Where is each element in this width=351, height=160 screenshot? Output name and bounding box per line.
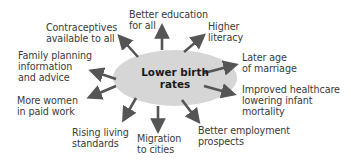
factor-better-education: Better education for all (129, 9, 208, 31)
factor-contraceptives: Contraceptives available to all (46, 22, 117, 44)
arrow-women-paid-work (90, 86, 116, 97)
factor-rising-living-standards: Rising living standards (72, 127, 129, 149)
factor-higher-literacy: Higher literacy (208, 21, 243, 43)
arrow-contraceptives (120, 37, 138, 57)
arrow-rising-living-standards (124, 98, 136, 119)
center-label: Lower birth rates (125, 66, 225, 90)
arrow-higher-literacy (184, 36, 203, 52)
factor-migration-cities: Migration to cities (137, 133, 181, 155)
factor-later-marriage: Later age of marriage (242, 52, 297, 74)
factor-family-planning: Family planning information and advice (18, 50, 92, 83)
factor-women-paid-work: More women in paid work (17, 95, 78, 117)
birth-rate-spider-diagram: Lower birth rates Contraceptives availab… (0, 0, 351, 160)
factor-better-employment: Better employment prospects (198, 125, 290, 147)
factor-improved-healthcare: Improved healthcare lowering infant mort… (242, 84, 340, 117)
arrow-family-planning (92, 71, 116, 79)
